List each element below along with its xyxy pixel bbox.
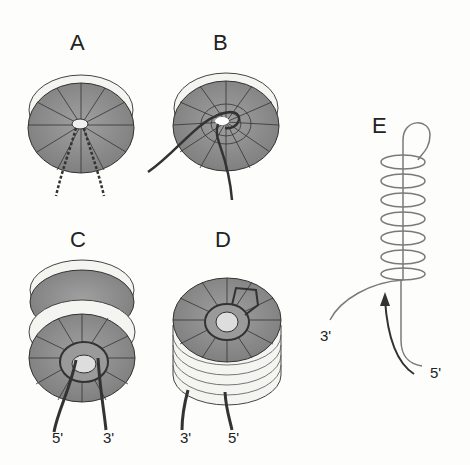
panel-a: A xyxy=(28,30,134,196)
panel-label-d: D xyxy=(215,227,231,252)
end-label-d-5prime: 5' xyxy=(228,429,239,446)
panel-e: E 3' 5' xyxy=(320,113,441,381)
direction-arrow xyxy=(385,300,414,374)
disk-stack-d xyxy=(173,278,281,405)
arrow-head-icon xyxy=(380,292,390,306)
end-label-e-5prime: 5' xyxy=(430,364,441,381)
panel-label-a: A xyxy=(70,30,85,55)
panel-d: D 3' 5' xyxy=(173,227,281,446)
panel-label-c: C xyxy=(70,227,86,252)
dna-strand-d-3prime xyxy=(182,390,188,430)
panel-label-b: B xyxy=(213,30,228,55)
panel-b: B xyxy=(148,30,279,200)
disk-b xyxy=(173,73,279,171)
disk-c-front xyxy=(29,300,135,402)
end-label-d-3prime: 3' xyxy=(180,429,191,446)
panel-label-e: E xyxy=(372,113,387,138)
panel-c: C 5' 3' xyxy=(29,227,135,446)
end-label-c-5prime: 5' xyxy=(52,429,63,446)
end-label-c-3prime: 3' xyxy=(103,429,114,446)
diagram-canvas: A B xyxy=(0,0,470,465)
helix-e xyxy=(330,123,430,366)
disk-a xyxy=(28,75,134,173)
end-label-e-3prime: 3' xyxy=(320,327,331,344)
